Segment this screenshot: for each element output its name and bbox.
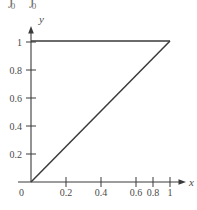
y-tick-label-1: 1	[0, 38, 22, 48]
y-tick-label-0.8: 0.8	[0, 66, 22, 76]
x-tick-label-1: 1	[158, 188, 182, 198]
x-axis-label: x	[189, 177, 194, 188]
plot-canvas	[0, 0, 197, 210]
curve-y-equals-x	[31, 41, 170, 182]
x-tick-label-0.4: 0.4	[89, 188, 113, 198]
integration-region-figure: ∫0 ∫0 · y x 0 0.2 0.4 0.6 0.8 1	[0, 0, 197, 210]
y-axis-label: y	[39, 14, 44, 25]
y-tick-label-0.2: 0.2	[0, 150, 22, 160]
y-axis-arrowhead	[28, 26, 34, 34]
y-tick-label-0.6: 0.6	[0, 94, 22, 104]
origin-label: 0	[19, 188, 24, 198]
x-axis-arrowhead	[179, 179, 187, 185]
y-tick-label-0.4: 0.4	[0, 122, 22, 132]
x-tick-label-0.2: 0.2	[54, 188, 78, 198]
